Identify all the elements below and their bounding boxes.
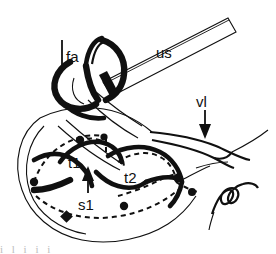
dashed-bottom-arc — [36, 190, 178, 218]
label-s1: s1 — [78, 196, 94, 213]
signature-mark — [209, 183, 258, 230]
signature-stroke — [212, 183, 258, 214]
node-marker — [120, 202, 128, 210]
label-us: us — [156, 44, 172, 61]
label-t2: t2 — [124, 169, 137, 186]
fa-neck — [86, 66, 98, 100]
signature-tail — [209, 212, 214, 230]
node-marker — [30, 178, 38, 186]
vl-trailing — [232, 130, 268, 152]
probe-contact-face — [99, 71, 118, 96]
label-vl: vl — [196, 93, 207, 110]
label-t1: t1 — [68, 154, 81, 171]
clipped-caption-strip: i l i i i — [0, 244, 276, 254]
vl-under-fold-2 — [178, 166, 210, 182]
outer-contour-group — [18, 107, 196, 242]
anatomical-line-drawing: fa us vl t1 s1 t2 — [0, 0, 276, 254]
fa-inner-curve — [72, 78, 84, 104]
thick-structure-group — [34, 142, 182, 206]
vl-arrow-head — [199, 124, 211, 139]
figure-root: fa us vl t1 s1 t2 i l i i i — [0, 0, 276, 254]
vl-arrow-group — [199, 110, 211, 139]
stroke-central-divider — [96, 172, 146, 188]
node-marker — [76, 136, 84, 144]
node-marker — [188, 188, 196, 196]
stroke-left-stub — [34, 180, 70, 190]
label-fa: fa — [66, 48, 79, 65]
node-marker — [173, 173, 182, 182]
